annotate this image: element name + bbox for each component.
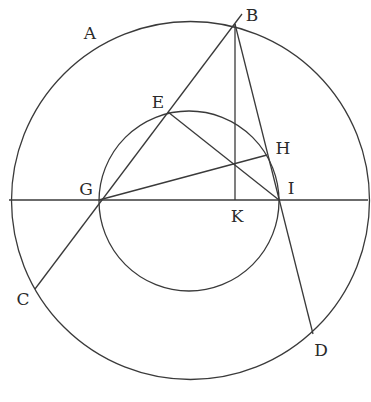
- point-label-i: I: [288, 180, 295, 197]
- point-label-g: G: [79, 181, 93, 198]
- line-segments: [9, 14, 368, 334]
- inner-circle: [99, 111, 279, 291]
- line-B-I-D: [235, 24, 313, 334]
- point-label-a: A: [84, 25, 96, 42]
- point-label-h: H: [276, 140, 291, 157]
- line-G-H: [99, 155, 267, 200]
- line-C-G-E-B: [35, 14, 242, 289]
- point-label-k: K: [231, 208, 244, 225]
- point-label-d: D: [314, 342, 328, 359]
- point-label-b: B: [246, 7, 259, 24]
- point-label-e: E: [152, 94, 164, 111]
- point-label-c: C: [16, 291, 29, 308]
